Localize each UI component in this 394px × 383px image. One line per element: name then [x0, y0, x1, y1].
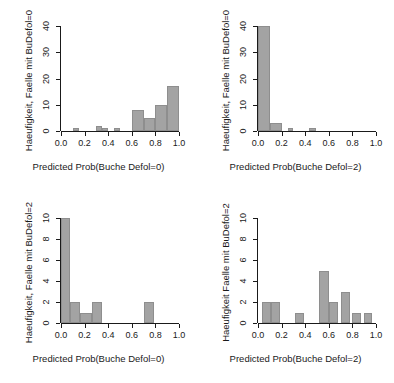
y-axis-tick-label: 20 — [238, 71, 248, 87]
y-axis-tick-label: 40 — [41, 18, 51, 34]
x-axis-tick-label: 0.4 — [96, 330, 120, 340]
plot-area-bottom-left — [61, 218, 179, 323]
y-axis-tick-label: 8 — [238, 231, 248, 247]
x-axis-tick-label: 0.4 — [293, 138, 317, 148]
x-axis-tick — [352, 132, 353, 136]
x-axis-tick — [282, 324, 283, 328]
x-axis-tick — [155, 132, 156, 136]
y-axis-tick — [56, 105, 60, 106]
histogram-bar — [80, 313, 92, 324]
y-axis-tick-label: 0 — [238, 315, 248, 331]
x-axis-tick — [155, 324, 156, 328]
y-axis-tick-label: 4 — [41, 273, 51, 289]
x-axis-tick — [329, 324, 330, 328]
x-axis-tick-label: 1.0 — [364, 138, 388, 148]
y-axis-tick — [56, 52, 60, 53]
x-axis-tick-label: 0.2 — [73, 330, 97, 340]
y-axis-tick-label: 30 — [238, 44, 248, 60]
panel-bottom-right: 0.00.20.40.60.81.00246810 Predicted Prob… — [197, 192, 394, 383]
y-axis-tick-label: 2 — [238, 294, 248, 310]
x-axis-tick-label: 0.8 — [143, 330, 167, 340]
x-axis-line — [258, 131, 376, 132]
y-axis-tick — [56, 218, 60, 219]
histogram-bar — [352, 313, 360, 324]
x-axis-label: Predicted Prob(Buche Defol=2) — [197, 161, 394, 172]
x-axis-tick-label: 0.8 — [340, 138, 364, 148]
histogram-bar — [341, 292, 350, 324]
x-axis-tick-label: 1.0 — [364, 330, 388, 340]
x-axis-tick-label: 1.0 — [167, 138, 191, 148]
y-axis-label: Haeufigkeit, Faelle mit BuDefol=0 — [23, 1, 34, 161]
panel-top-right: 0.00.20.40.60.81.0010203040 Predicted Pr… — [197, 0, 394, 191]
y-axis-tick — [253, 26, 257, 27]
x-axis-tick-label: 0.2 — [73, 138, 97, 148]
y-axis-tick — [253, 79, 257, 80]
y-axis-tick-label: 10 — [41, 210, 51, 226]
histogram-bar — [329, 302, 338, 323]
x-axis-tick-label: 0.4 — [96, 138, 120, 148]
y-axis-tick-label: 20 — [41, 71, 51, 87]
y-axis-tick — [253, 302, 257, 303]
y-axis-tick — [253, 131, 257, 132]
x-axis-tick — [132, 132, 133, 136]
x-axis-tick — [85, 324, 86, 328]
histogram-figure: 0.00.20.40.60.81.0010203040 Predicted Pr… — [0, 0, 394, 383]
x-axis-line — [258, 323, 376, 324]
y-axis-tick — [56, 302, 60, 303]
histogram-bar — [364, 313, 372, 324]
histogram-bar — [271, 302, 280, 323]
x-axis-line — [61, 131, 179, 132]
x-axis-tick — [61, 324, 62, 328]
x-axis-tick — [258, 132, 259, 136]
x-axis-tick — [258, 324, 259, 328]
y-axis-line — [60, 218, 61, 323]
x-axis-tick — [179, 324, 180, 328]
x-axis-tick — [329, 132, 330, 136]
x-axis-tick — [352, 324, 353, 328]
x-axis-tick — [282, 132, 283, 136]
y-axis-tick-label: 8 — [41, 231, 51, 247]
y-axis-tick — [56, 323, 60, 324]
x-axis-tick — [108, 132, 109, 136]
histogram-bar — [295, 313, 304, 324]
y-axis-tick — [253, 260, 257, 261]
histogram-bar — [167, 86, 179, 131]
x-axis-label: Predicted Prob(Buche Defol=0) — [0, 161, 197, 172]
plot-area-top-left — [61, 26, 179, 131]
y-axis-tick — [56, 131, 60, 132]
bars-bottom-right — [258, 218, 376, 323]
bars-top-right — [258, 26, 376, 131]
y-axis-tick-label: 6 — [41, 252, 51, 268]
y-axis-label: Haeufigkeit Faelle mit BuDefol=2 — [220, 193, 231, 353]
y-axis-tick-label: 0 — [41, 315, 51, 331]
y-axis-tick — [253, 281, 257, 282]
x-axis-tick-label: 0.8 — [143, 138, 167, 148]
histogram-bar — [270, 123, 282, 131]
histogram-bar — [70, 302, 79, 323]
x-axis-tick-label: 0.6 — [120, 330, 144, 340]
y-axis-label: Haeufigkeit, Faelle mit BuDefol=0 — [220, 1, 231, 161]
y-axis-line — [60, 26, 61, 131]
x-axis-tick — [61, 132, 62, 136]
x-axis-tick — [305, 132, 306, 136]
histogram-bar — [155, 105, 167, 131]
y-axis-tick — [253, 105, 257, 106]
panel-top-left: 0.00.20.40.60.81.0010203040 Predicted Pr… — [0, 0, 197, 191]
y-axis-tick-label: 6 — [238, 252, 248, 268]
x-axis-tick — [179, 132, 180, 136]
plot-area-top-right — [258, 26, 376, 131]
x-axis-label: Predicted Prob(Buche Defol=0) — [0, 353, 197, 364]
y-axis-tick-label: 10 — [238, 210, 248, 226]
histogram-bar — [144, 302, 155, 323]
x-axis-tick-label: 0.0 — [246, 138, 270, 148]
y-axis-tick — [253, 239, 257, 240]
x-axis-tick-label: 0.0 — [246, 330, 270, 340]
x-axis-tick-label: 0.6 — [317, 330, 341, 340]
y-axis-tick — [56, 281, 60, 282]
y-axis-tick — [56, 79, 60, 80]
x-axis-tick — [132, 324, 133, 328]
histogram-bar — [61, 218, 70, 323]
y-axis-tick — [253, 323, 257, 324]
y-axis-tick — [253, 218, 257, 219]
histogram-bar — [258, 26, 270, 131]
